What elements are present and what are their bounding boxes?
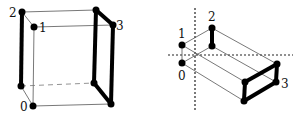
vertex: [18, 83, 25, 90]
label-0: 0: [178, 69, 186, 83]
vertex-2: [209, 25, 216, 32]
label-1: 1: [39, 21, 47, 35]
edge: [212, 28, 277, 64]
thick-edge: [245, 64, 277, 82]
edge: [22, 10, 96, 12]
vertex: [209, 43, 216, 50]
vertex: [91, 80, 98, 87]
hidden-edge: [21, 83, 94, 86]
vertex-3: [273, 79, 280, 86]
label-0: 0: [20, 100, 28, 114]
vertex-2: [19, 9, 26, 16]
edge: [182, 28, 212, 45]
label-1: 1: [178, 27, 186, 41]
vertex: [108, 101, 115, 108]
thick-edge: [244, 82, 276, 101]
edge: [182, 45, 245, 82]
label-2: 2: [208, 10, 216, 24]
vertex: [242, 79, 249, 86]
thick-edge: [94, 10, 96, 83]
vertex-1: [179, 42, 186, 49]
diagram-canvas: 2 1 3 0 1 0 2 3: [0, 0, 300, 117]
label-3: 3: [116, 19, 124, 33]
edge: [212, 46, 276, 82]
right-box: 1 0 2 3: [168, 8, 293, 110]
thick-edge: [21, 12, 22, 86]
vertex: [241, 98, 248, 105]
label-3: 3: [281, 77, 289, 91]
thick-edge: [111, 25, 113, 104]
edge: [33, 104, 111, 106]
vertex: [274, 61, 281, 68]
edge: [182, 46, 212, 63]
vertex-0: [30, 103, 37, 110]
thick-edge: [94, 83, 111, 104]
vertex: [93, 7, 100, 14]
label-2: 2: [9, 6, 17, 20]
vertex-1: [31, 24, 38, 31]
left-cube: 2 1 3 0: [9, 6, 124, 114]
vertex-0: [179, 60, 186, 67]
edge: [182, 63, 244, 101]
edge: [33, 27, 34, 106]
